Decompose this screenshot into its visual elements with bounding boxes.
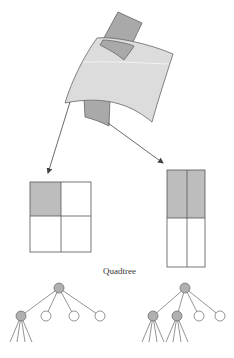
right-tree — [142, 283, 225, 342]
right-grid — [167, 170, 205, 267]
tree-node-empty — [41, 311, 51, 321]
quadtree-diagram — [0, 0, 234, 358]
tree-node-filled — [180, 283, 190, 293]
quadtree-caption: Quadtree — [103, 266, 136, 276]
arrow-to-right-grid — [108, 123, 163, 163]
tree-node-filled — [172, 311, 182, 321]
tree-node-filled — [16, 311, 26, 321]
left-tree — [10, 283, 105, 342]
left-grid — [30, 182, 91, 252]
tree-node-filled — [54, 283, 64, 293]
tree-node-empty — [194, 311, 204, 321]
lower-patch — [84, 98, 110, 126]
tree-node-empty — [69, 311, 79, 321]
tree-node-filled — [148, 311, 158, 321]
tree-node-empty — [95, 311, 105, 321]
tree-node-empty — [215, 311, 225, 321]
arrow-to-left-grid — [48, 102, 70, 173]
